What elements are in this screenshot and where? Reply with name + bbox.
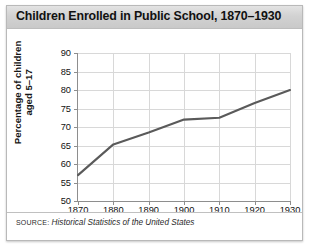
x-tick-label: 1910	[209, 205, 230, 215]
x-tick-label: 1880	[103, 205, 124, 215]
plot-wrapper: Percentage of children aged 5–17 5055606…	[7, 29, 302, 212]
x-tick-label: 1930	[280, 205, 301, 215]
y-axis-label-line1: Percentage of children	[12, 41, 23, 144]
y-tick-label: 80	[61, 85, 71, 95]
y-tick-label: 60	[61, 159, 71, 169]
x-tick-label: 1870	[68, 205, 89, 215]
y-tick-label: 65	[61, 141, 71, 151]
chart-figure: Children Enrolled in Public School, 1870…	[6, 5, 303, 241]
y-tick-label: 70	[61, 122, 71, 132]
x-tick-label: 1920	[244, 205, 265, 215]
gridline-vertical	[290, 53, 291, 201]
data-series-line	[78, 53, 290, 201]
source-divider	[7, 212, 302, 213]
y-tick-label: 55	[61, 178, 71, 188]
page-title: Children Enrolled in Public School, 1870…	[16, 9, 281, 23]
source-title: Historical Statistics of the United Stat…	[52, 218, 195, 227]
source-note: SOURCE: Historical Statistics of the Uni…	[16, 218, 194, 227]
x-tick-label: 1900	[174, 205, 195, 215]
y-tick-label: 75	[61, 104, 71, 114]
y-tick-label: 85	[61, 67, 71, 77]
source-label: SOURCE:	[16, 219, 49, 226]
x-tick-label: 1890	[138, 205, 159, 215]
title-band: Children Enrolled in Public School, 1870…	[7, 6, 302, 29]
plot-area: 5055606570758085901870188018901900191019…	[77, 53, 290, 202]
y-axis-label: Percentage of children aged 5–17	[12, 27, 35, 157]
y-axis-label-line2: aged 5–17	[23, 69, 34, 115]
y-tick-label: 90	[61, 48, 71, 58]
